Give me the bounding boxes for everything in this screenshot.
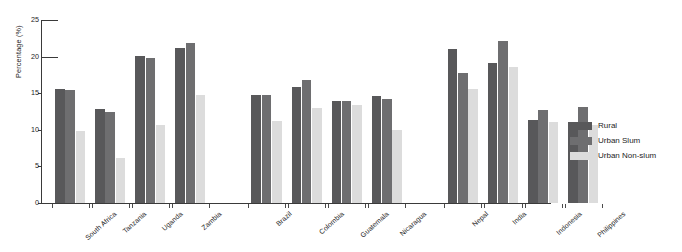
x-axis-tick	[172, 204, 173, 208]
bar	[448, 49, 458, 203]
x-axis-line	[41, 203, 551, 204]
x-axis-category-label: Zambia	[200, 210, 222, 231]
plot-area	[41, 20, 551, 203]
x-axis-tick	[89, 204, 90, 208]
x-axis-category-label: South Africa	[84, 210, 118, 241]
bar	[352, 105, 362, 203]
bar	[549, 122, 559, 203]
x-axis-tick	[129, 204, 130, 208]
x-axis-tick	[368, 204, 369, 208]
x-axis-category-label: Philippines	[596, 210, 627, 239]
x-axis-tick	[522, 204, 523, 208]
x-axis-tick	[565, 204, 566, 208]
bar	[312, 108, 322, 203]
legend-item-urban-non-slum[interactable]: Urban Non-slum	[570, 149, 656, 162]
y-axis-tick-label-wrap: 0	[5, 199, 39, 207]
bar	[186, 43, 196, 203]
bar	[135, 56, 145, 203]
bar	[302, 80, 312, 203]
bar	[458, 73, 468, 203]
bar	[116, 158, 126, 203]
bar	[468, 89, 478, 203]
legend-label-urban-slum: Urban Slum	[598, 137, 640, 145]
y-axis-tick-label: 25	[9, 16, 39, 23]
legend-swatch-urban-non-slum-icon	[570, 152, 592, 160]
y-axis-tick-label-wrap: 25	[5, 16, 39, 24]
bar	[251, 95, 261, 203]
x-axis-tick	[405, 204, 406, 208]
x-axis-tick	[602, 204, 603, 208]
x-axis-tick	[92, 204, 93, 208]
legend-item-urban-slum[interactable]: Urban Slum	[570, 134, 656, 147]
x-axis-category-label: Uganda	[160, 210, 183, 232]
bar	[498, 41, 508, 204]
x-axis-tick	[325, 204, 326, 208]
x-axis-tick	[248, 204, 249, 208]
x-axis-tick	[481, 204, 482, 208]
x-axis-tick	[169, 204, 170, 208]
bar	[196, 95, 206, 203]
legend-item-rural[interactable]: Rural	[570, 119, 656, 132]
y-axis-tick-label: 10	[9, 126, 39, 133]
bar	[65, 90, 75, 203]
bar	[76, 131, 86, 203]
bar	[509, 67, 519, 203]
y-axis-tick-label: 15	[9, 89, 39, 96]
x-axis-category-label: Tanzania	[121, 210, 147, 234]
y-axis-tick-label-wrap: 15	[5, 89, 39, 97]
bar	[146, 58, 156, 203]
bar	[488, 63, 498, 203]
bar	[156, 125, 166, 203]
x-axis-category-label: India	[511, 210, 527, 226]
y-axis-title: Percentage (%)	[14, 0, 23, 78]
legend-swatch-rural-icon	[570, 122, 592, 130]
x-axis-tick	[444, 204, 445, 208]
x-axis-tick	[209, 204, 210, 208]
bar	[528, 120, 538, 203]
x-axis-tick	[288, 204, 289, 208]
y-axis-tick-label: 5	[9, 162, 39, 169]
x-axis-category-label: Indonesia	[555, 210, 583, 236]
legend-label-urban-non-slum: Urban Non-slum	[598, 152, 656, 160]
bar	[262, 95, 272, 203]
x-axis-tick	[285, 204, 286, 208]
x-axis-tick	[132, 204, 133, 208]
x-axis-tick	[525, 204, 526, 208]
x-axis-category-label: Brazil	[275, 210, 293, 227]
x-axis-tick	[365, 204, 366, 208]
x-axis-category-label: Nicaragua	[399, 210, 428, 237]
chart-legend: Rural Urban Slum Urban Non-slum	[570, 119, 656, 164]
bar	[332, 101, 342, 203]
bar	[105, 112, 115, 204]
bar	[538, 110, 548, 203]
x-axis-category-label: Guatemala	[359, 210, 390, 239]
legend-swatch-urban-slum-icon	[570, 137, 592, 145]
bar	[55, 89, 65, 203]
x-axis-tick	[484, 204, 485, 208]
bar	[342, 101, 352, 203]
bar	[175, 48, 185, 203]
x-axis-category-label: Colombia	[318, 210, 345, 236]
x-axis-tick	[328, 204, 329, 208]
x-axis-category-label: Nepal	[471, 210, 490, 228]
y-axis-tick-label-wrap: 10	[5, 126, 39, 134]
bar	[392, 130, 402, 203]
bar	[292, 87, 302, 203]
x-axis-tick	[562, 204, 563, 208]
y-axis-tick-label: 0	[9, 199, 39, 206]
bar	[272, 121, 282, 203]
y-axis-tick-label-wrap: 20	[5, 53, 39, 61]
bar-chart: Percentage (%) 0510152025 South AfricaTa…	[0, 0, 682, 252]
bar	[372, 96, 382, 203]
x-axis-tick	[52, 204, 53, 208]
bar	[382, 99, 392, 203]
y-axis-tick-label-wrap: 5	[5, 162, 39, 170]
bar	[95, 109, 105, 203]
legend-label-rural: Rural	[598, 122, 617, 130]
y-axis-tick-label: 20	[9, 53, 39, 60]
